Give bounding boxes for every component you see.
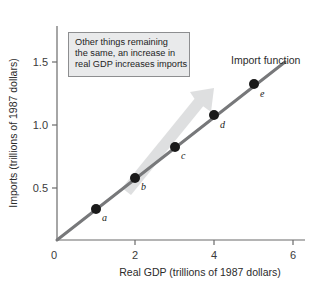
import-function-line [57, 62, 285, 240]
data-point-label-a: a [102, 212, 107, 223]
y-tick-label-0-5: 0.5 [33, 182, 48, 194]
y-axis-title: Imports (trillions of 1987 dollars) [7, 58, 19, 207]
data-point-label-c: c [181, 150, 186, 161]
data-point-a [91, 204, 101, 214]
annotation-line-2: the same, an increase in [75, 48, 184, 59]
x-tick-label-0: 0 [51, 249, 57, 261]
y-tick-label-1-0: 1.0 [33, 119, 48, 131]
annotation-textbox: Other things remaining the same, an incr… [68, 32, 190, 77]
import-function-label: Import function [231, 54, 301, 66]
data-point-c [170, 142, 180, 152]
annotation-line-1: Other things remaining [75, 37, 184, 48]
x-tick-label-2: 2 [132, 249, 138, 261]
data-point-b [130, 173, 140, 183]
data-point-d [209, 110, 219, 120]
data-point-label-e: e [260, 88, 265, 99]
import-function-chart: a b c d e 1.5 1.0 0.5 0 2 4 6 Imports (t… [0, 0, 334, 284]
data-point-label-d: d [220, 119, 226, 130]
data-point-label-b: b [141, 181, 146, 192]
x-tick-label-4: 4 [211, 249, 217, 261]
x-axis-title: Real GDP (trillions of 1987 dollars) [119, 266, 280, 278]
y-tick-label-1-5: 1.5 [33, 56, 48, 68]
x-tick-label-6: 6 [290, 249, 296, 261]
data-point-e [249, 79, 259, 89]
annotation-line-3: real GDP increases imports [75, 59, 184, 70]
